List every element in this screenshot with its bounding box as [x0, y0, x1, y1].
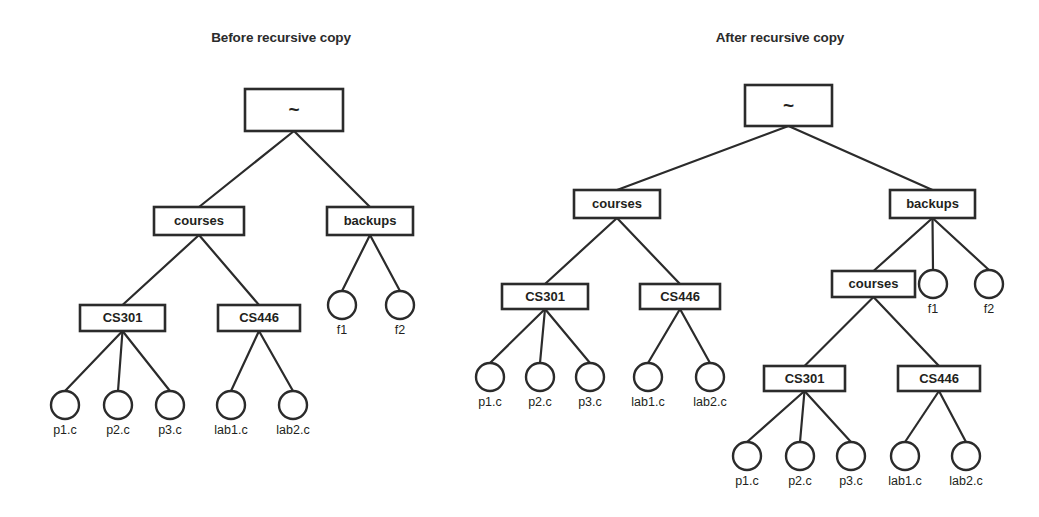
- tree-edge: [294, 131, 370, 207]
- tree-node-a-cs446[interactable]: CS446: [640, 284, 720, 309]
- node-circle: [526, 363, 554, 391]
- tree-node-a-p3[interactable]: p3.c: [576, 363, 604, 409]
- tree-edge: [874, 218, 933, 271]
- tree-node-b-cs301[interactable]: CS301: [80, 305, 165, 331]
- node-circle: [386, 291, 414, 319]
- tree-node-a-lab1b[interactable]: lab1.c: [888, 442, 921, 488]
- edges-before: [65, 131, 400, 391]
- node-box-label: CS446: [660, 289, 700, 304]
- tree-node-a-p2b[interactable]: p2.c: [786, 442, 814, 488]
- leaf-file-label: p3.c: [839, 474, 863, 488]
- leaf-file-label: p2.c: [106, 423, 130, 437]
- tree-node-b-lab2[interactable]: lab2.c: [276, 391, 309, 437]
- tree-node-b-p3[interactable]: p3.c: [156, 391, 184, 437]
- tree-node-a-cs301[interactable]: CS301: [502, 284, 588, 309]
- tree-edge: [231, 331, 259, 391]
- tree-edge: [789, 126, 933, 190]
- tree-node-b-root[interactable]: ~: [245, 89, 343, 131]
- node-circle: [51, 391, 79, 419]
- tree-diagram-canvas: Before recursive copy~coursesbackupsCS30…: [0, 0, 1039, 517]
- home-tilde-label: ~: [783, 95, 794, 116]
- node-circle: [217, 391, 245, 419]
- tree-node-a-f2[interactable]: f2: [975, 270, 1003, 316]
- node-circle: [104, 391, 132, 419]
- node-circle: [837, 442, 865, 470]
- node-circle: [891, 442, 919, 470]
- panel-title-before: Before recursive copy: [211, 30, 351, 45]
- tree-node-a-courses2[interactable]: courses: [832, 271, 915, 297]
- leaf-file-label: f1: [337, 323, 347, 337]
- node-box-label: CS301: [103, 310, 143, 325]
- tree-node-a-p2[interactable]: p2.c: [526, 363, 554, 409]
- leaf-file-label: p1.c: [735, 474, 759, 488]
- node-circle: [919, 270, 947, 298]
- tree-edge: [199, 131, 294, 207]
- node-circle: [952, 442, 980, 470]
- node-circle: [328, 291, 356, 319]
- leaf-file-label: p2.c: [788, 474, 812, 488]
- tree-edge: [199, 235, 259, 305]
- node-circle: [696, 363, 724, 391]
- tree-node-a-cs301b[interactable]: CS301: [764, 366, 845, 391]
- tree-edge: [259, 331, 293, 391]
- tree-edge: [123, 331, 171, 391]
- tree-edge: [805, 297, 874, 366]
- tree-node-b-p2[interactable]: p2.c: [104, 391, 132, 437]
- tree-edge: [123, 235, 200, 305]
- leaf-file-label: f2: [395, 323, 405, 337]
- tree-node-b-backups[interactable]: backups: [327, 207, 413, 235]
- node-box-label: CS301: [785, 371, 825, 386]
- tree-node-b-lab1[interactable]: lab1.c: [214, 391, 247, 437]
- leaf-file-label: lab1.c: [888, 474, 921, 488]
- node-circle: [476, 363, 504, 391]
- tree-node-a-p1b[interactable]: p1.c: [733, 442, 761, 488]
- leaf-file-label: f1: [928, 302, 938, 316]
- leaf-file-label: lab1.c: [631, 395, 664, 409]
- tree-edge: [540, 309, 545, 363]
- node-box-label: backups: [344, 213, 397, 228]
- leaf-file-label: lab2.c: [276, 423, 309, 437]
- tree-edge: [933, 218, 990, 270]
- tree-node-b-f1[interactable]: f1: [328, 291, 356, 337]
- tree-edge: [545, 218, 617, 284]
- tree-node-b-f2[interactable]: f2: [386, 291, 414, 337]
- tree-node-a-backups[interactable]: backups: [890, 190, 975, 218]
- tree-edge: [342, 235, 370, 291]
- tree-node-a-p1[interactable]: p1.c: [476, 363, 504, 409]
- home-tilde-label: ~: [288, 99, 299, 120]
- leaf-file-label: p1.c: [478, 395, 502, 409]
- tree-edge: [617, 126, 789, 190]
- panel-title-after: After recursive copy: [716, 30, 845, 45]
- tree-edge: [800, 391, 805, 442]
- leaf-file-label: p1.c: [53, 423, 77, 437]
- node-box-label: courses: [592, 196, 642, 211]
- tree-node-a-cs446b[interactable]: CS446: [898, 366, 980, 391]
- node-box-label: courses: [849, 276, 899, 291]
- tree-node-a-root[interactable]: ~: [745, 85, 832, 126]
- tree-node-a-p3b[interactable]: p3.c: [837, 442, 865, 488]
- tree-edge: [545, 309, 590, 363]
- tree-edge: [905, 391, 939, 442]
- tree-node-a-lab2[interactable]: lab2.c: [693, 363, 726, 409]
- tree-node-a-lab2b[interactable]: lab2.c: [949, 442, 982, 488]
- tree-edge: [118, 331, 123, 391]
- tree-edge: [805, 391, 852, 442]
- node-circle: [733, 442, 761, 470]
- leaf-file-label: p3.c: [578, 395, 602, 409]
- tree-node-a-f1[interactable]: f1: [919, 270, 947, 316]
- leaf-file-label: lab2.c: [949, 474, 982, 488]
- tree-node-b-cs446[interactable]: CS446: [218, 305, 300, 331]
- tree-edge: [680, 309, 710, 363]
- tree-node-a-courses[interactable]: courses: [574, 190, 660, 218]
- tree-edge: [370, 235, 400, 291]
- node-circle: [975, 270, 1003, 298]
- node-box-label: backups: [906, 196, 959, 211]
- tree-edge: [933, 218, 934, 270]
- tree-node-b-courses[interactable]: courses: [154, 207, 244, 235]
- tree-node-a-lab1[interactable]: lab1.c: [631, 363, 664, 409]
- tree-edge: [490, 309, 545, 363]
- node-box-label: CS301: [525, 289, 565, 304]
- tree-node-b-p1[interactable]: p1.c: [51, 391, 79, 437]
- tree-edge: [648, 309, 680, 363]
- node-circle: [576, 363, 604, 391]
